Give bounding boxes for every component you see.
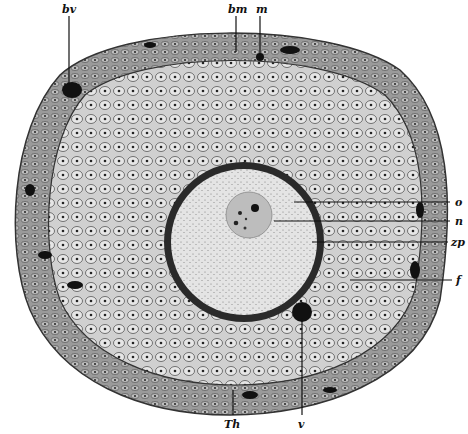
follicle-illustration xyxy=(0,0,468,434)
nucleolus xyxy=(251,204,259,212)
label-th: Th xyxy=(224,419,240,430)
label-bm: bm xyxy=(228,4,247,15)
label-zp: zp xyxy=(451,237,465,248)
label-bv: bv xyxy=(62,4,76,15)
label-v: v xyxy=(298,419,304,430)
label-o: o xyxy=(455,197,462,208)
label-m: m xyxy=(256,4,268,15)
oocyte-cytoplasm xyxy=(171,169,317,315)
oocyte-nucleus xyxy=(226,192,272,238)
label-f: f xyxy=(456,275,461,286)
label-n: n xyxy=(455,216,463,227)
